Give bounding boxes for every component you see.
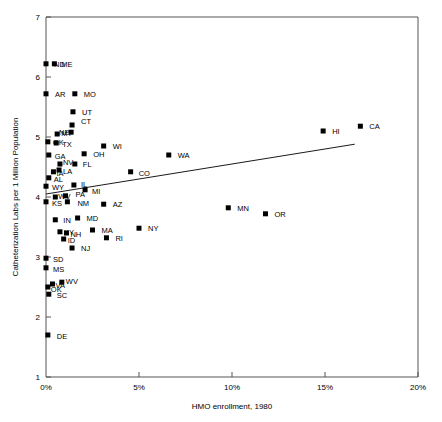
- y-tick-label: 3: [36, 253, 41, 262]
- x-tick-label: 20%: [410, 383, 426, 392]
- y-tick-label: 7: [36, 13, 41, 22]
- point-marker: [137, 226, 142, 231]
- x-axis-ticks: 0%5%10%15%20%: [40, 372, 426, 392]
- point-label: MA: [102, 226, 113, 235]
- data-point: MO: [72, 90, 96, 99]
- point-label: NJ: [81, 244, 90, 253]
- point-marker: [90, 228, 95, 233]
- point-label: MI: [92, 187, 100, 196]
- point-marker: [54, 141, 59, 146]
- point-label: CO: [139, 169, 150, 178]
- data-point: WY: [44, 183, 65, 192]
- axes: 0%5%10%15%20% 1234567: [36, 13, 426, 392]
- data-point: MI: [83, 187, 101, 196]
- point-marker: [358, 124, 363, 129]
- point-label: NV: [63, 158, 73, 167]
- point-label: LA: [63, 167, 72, 176]
- point-label: ID: [68, 236, 76, 245]
- point-label: WV: [66, 277, 78, 286]
- point-marker: [44, 256, 49, 261]
- data-point: SD: [44, 255, 65, 264]
- point-marker: [72, 162, 77, 167]
- point-marker: [65, 199, 70, 204]
- point-marker: [226, 205, 231, 210]
- data-point: MA: [90, 226, 113, 235]
- data-points-group: NDMEARMOUTMTNECTOKTXWIGAOHWANVFLHICAIALA…: [44, 60, 380, 341]
- point-marker: [128, 169, 133, 174]
- data-point: FL: [72, 160, 91, 169]
- point-label: NE: [59, 128, 69, 137]
- point-label: DE: [57, 332, 67, 341]
- point-label: MS: [53, 265, 64, 274]
- y-axis-title: Catheterization Labs per 1 Million Popul…: [11, 118, 20, 277]
- data-point: NY: [137, 224, 159, 233]
- data-point: NJ: [70, 244, 91, 253]
- point-marker: [64, 231, 69, 236]
- point-label: FL: [83, 160, 92, 169]
- data-point: CA: [358, 122, 380, 131]
- point-label: NM: [77, 199, 89, 208]
- data-point: IN: [53, 216, 71, 225]
- point-marker: [44, 184, 49, 189]
- y-tick-label: 5: [36, 133, 41, 142]
- point-marker: [70, 109, 75, 114]
- data-point: HI: [321, 127, 340, 136]
- point-marker: [53, 217, 58, 222]
- point-marker: [82, 151, 87, 156]
- y-tick-label: 1: [36, 373, 41, 382]
- point-label: WI: [113, 142, 122, 151]
- point-marker: [44, 61, 49, 66]
- y-tick-label: 2: [36, 313, 41, 322]
- point-label: UT: [82, 108, 92, 117]
- x-tick-label: 15%: [317, 383, 333, 392]
- point-label: WA: [178, 151, 190, 160]
- point-label: AR: [55, 90, 66, 99]
- point-marker: [51, 169, 56, 174]
- x-tick-label: 0%: [40, 383, 52, 392]
- point-label: AZ: [113, 200, 123, 209]
- data-point: OH: [82, 150, 105, 159]
- point-marker: [46, 175, 51, 180]
- data-point: MN: [226, 204, 249, 213]
- point-marker: [72, 91, 77, 96]
- point-label: CT: [81, 117, 91, 126]
- data-point: UT: [70, 108, 92, 117]
- scatter-plot-figure: 0%5%10%15%20% 1234567 NDMEARMOUTMTNECTOK…: [0, 0, 442, 422]
- point-marker: [101, 202, 106, 207]
- data-point: CT: [70, 117, 92, 128]
- data-point: AR: [44, 90, 67, 99]
- plot-frame: [46, 17, 418, 377]
- data-point: OR: [263, 210, 286, 219]
- point-marker: [75, 216, 80, 221]
- point-label: WY: [52, 183, 64, 192]
- point-label: ME: [61, 60, 72, 69]
- point-label: PA: [76, 190, 85, 199]
- point-marker: [71, 183, 76, 188]
- data-point: WA: [166, 151, 189, 160]
- point-label: OH: [93, 150, 104, 159]
- point-label: MD: [87, 214, 99, 223]
- point-label: MO: [84, 90, 96, 99]
- data-point: CO: [128, 169, 150, 178]
- data-point: AZ: [101, 200, 123, 209]
- point-label: RI: [115, 234, 123, 243]
- x-axis-title: HMO enrollment, 1980: [192, 402, 273, 411]
- x-tick-label: 10%: [224, 383, 240, 392]
- point-marker: [70, 246, 75, 251]
- point-marker: [57, 162, 62, 167]
- point-label: OR: [274, 210, 286, 219]
- point-marker: [104, 235, 109, 240]
- point-marker: [63, 193, 68, 198]
- point-marker: [263, 211, 268, 216]
- point-marker: [45, 139, 50, 144]
- point-marker: [52, 61, 57, 66]
- point-label: MN: [237, 204, 249, 213]
- point-label: CA: [369, 122, 379, 131]
- point-label: NY: [148, 224, 158, 233]
- data-point: ID: [61, 236, 76, 245]
- point-marker: [57, 168, 62, 173]
- data-point: NM: [65, 199, 89, 208]
- point-label: HI: [332, 127, 340, 136]
- point-marker: [45, 285, 50, 290]
- point-marker: [101, 144, 106, 149]
